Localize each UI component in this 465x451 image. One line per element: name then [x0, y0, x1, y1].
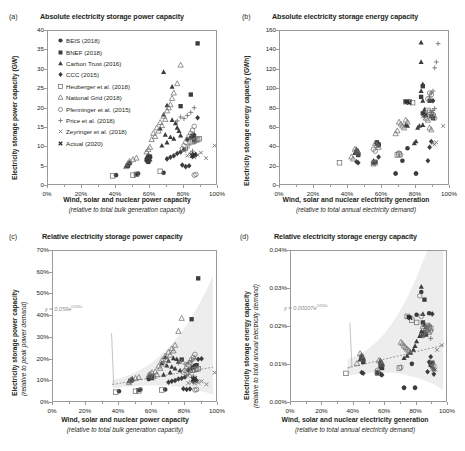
panel-c-ylabel: Electricity storage power capacity [11, 289, 18, 396]
y-axis-tick-mark [44, 88, 47, 89]
y-axis-tick-label: 20 [254, 162, 276, 169]
panel-c: (c) Relative electricity storage power c… [0, 228, 232, 451]
x-axis-minor-tick [330, 185, 331, 187]
y-axis-tick-label: 0.02% [253, 322, 287, 329]
legend-item[interactable]: Heuberger et al. (2018) [56, 81, 131, 92]
x-axis-tick-label: 20% [307, 407, 335, 414]
legend-item-label: Actual (2020) [65, 140, 103, 147]
y-axis-tick-mark [287, 250, 290, 251]
panel-d-plot-area [290, 250, 447, 402]
x-axis-tick-mark [353, 402, 354, 405]
y-axis-tick-label: 30 [22, 65, 44, 72]
legend-item[interactable]: BEIS (2018) [56, 35, 131, 46]
y-axis-tick-mark [44, 146, 47, 147]
x-axis-tick-mark [415, 185, 416, 188]
x-axis-tick-mark [449, 185, 450, 188]
x-axis-tick-mark [416, 402, 417, 405]
x-axis-minor-tick [69, 402, 70, 404]
x-axis-tick-mark [447, 402, 448, 405]
legend-item[interactable]: Pfenninger et al. (2015) [56, 103, 131, 114]
x-axis-tick-mark [183, 185, 184, 188]
x-axis-tick-mark [313, 185, 314, 188]
legend-item[interactable]: Actual (2020) [56, 138, 131, 149]
panel-d-title: Relative electricity storage energy capa… [274, 232, 417, 241]
panel-d-xsublabel: (relative to total annual electricity de… [246, 426, 464, 433]
legend-item[interactable]: CCC (2015) [56, 69, 131, 80]
x-axis-tick-label: 0% [38, 407, 66, 414]
y-axis-tick-label: 50% [23, 289, 49, 296]
x-axis-tick-mark [290, 402, 291, 405]
x-axis-minor-tick [296, 185, 297, 187]
y-axis-tick-label: 10% [23, 376, 49, 383]
y-axis-tick-mark [287, 288, 290, 289]
panel-d-xlabel: Wind, solar and nuclear electricity gene… [246, 416, 464, 423]
y-axis-tick-label: 40% [23, 311, 49, 318]
x-axis-tick-label: 100% [433, 407, 461, 414]
x-axis-tick-mark [279, 185, 280, 188]
y-axis-tick-label: 25 [22, 84, 44, 91]
y-axis-tick-mark [287, 364, 290, 365]
panel-c-title: Relative electricity storage power capac… [42, 232, 183, 241]
x-axis-tick-mark [85, 402, 86, 405]
y-axis-tick-mark [276, 88, 279, 89]
y-axis-tick-label: 0 [22, 181, 44, 188]
y-axis-tick-label: 60% [23, 268, 49, 275]
x-axis-tick-label: 20% [71, 407, 99, 414]
y-axis-tick-mark [287, 326, 290, 327]
panel-b-tag: (b) [242, 13, 251, 20]
y-axis-tick-label: 35 [22, 45, 44, 52]
legend-item[interactable]: Price et al. (2018) [56, 115, 131, 126]
panel-d-ylabel: Electricity storage energy capacity [243, 291, 250, 400]
panel-a-tag: (a) [9, 13, 18, 20]
legend-item-label: BNEF (2018) [65, 49, 102, 56]
y-axis-tick-mark [276, 166, 279, 167]
panel-b-xsublabel: (relative to total annual electricity de… [248, 206, 464, 213]
y-axis-tick-mark [276, 108, 279, 109]
filled-diamond-icon [56, 70, 65, 79]
x-axis-tick-mark [47, 185, 48, 188]
legend-item-label: CCC (2015) [65, 71, 99, 78]
x-axis-minor-tick [200, 185, 201, 187]
panel-a-xsublabel: (relative to total bulk generation capac… [22, 206, 232, 213]
x-axis-minor-tick [168, 402, 169, 404]
x-axis-tick-mark [115, 185, 116, 188]
y-axis-tick-mark [44, 69, 47, 70]
y-axis-tick-label: 0.01% [253, 360, 287, 367]
legend-item[interactable]: BNEF (2018) [56, 46, 131, 57]
plus-icon [56, 116, 65, 125]
y-axis-tick-mark [49, 250, 52, 251]
panel-a: (a) Absolute electricity storage power c… [0, 0, 232, 228]
x-axis-minor-tick [369, 402, 370, 404]
y-axis-tick-label: 70% [23, 246, 49, 253]
x-axis-tick-label: 40% [339, 407, 367, 414]
x-axis-minor-tick [201, 402, 202, 404]
panel-d-scatter [291, 251, 448, 403]
legend-item[interactable]: Zeyringer et al. (2018) [56, 126, 131, 137]
y-axis-tick-mark [276, 146, 279, 147]
x-axis-tick-label: 0% [276, 407, 304, 414]
x-axis-tick-label: 80% [170, 407, 198, 414]
y-axis-tick-mark [276, 127, 279, 128]
filled-circle-icon [56, 36, 65, 45]
y-axis-tick-mark [49, 315, 52, 316]
x-axis-tick-mark [81, 185, 82, 188]
x-axis-minor-tick [337, 402, 338, 404]
y-axis-tick-mark [49, 337, 52, 338]
x-axis-tick-mark [184, 402, 185, 405]
y-axis-tick-label: 0.00% [253, 398, 287, 405]
panel-c-tag: (c) [9, 233, 17, 240]
legend-item-label: Heuberger et al. (2018) [65, 83, 130, 90]
figure-root: (a) Absolute electricity storage power c… [0, 0, 465, 451]
panel-b-scatter [280, 31, 450, 186]
legend-item[interactable]: Carbon Trust (2016) [56, 58, 131, 69]
x-bold-icon [56, 139, 65, 148]
y-axis-tick-mark [44, 30, 47, 31]
legend-item-label: Price et al. (2018) [65, 117, 115, 124]
panel-d-trend-equation: y = 0.00007e0.0162x [284, 304, 327, 311]
y-axis-tick-label: 120 [254, 65, 276, 72]
legend-item[interactable]: National Grid (2018) [56, 92, 131, 103]
open-square-icon [56, 82, 65, 91]
y-axis-tick-label: 15 [22, 123, 44, 130]
y-axis-tick-mark [276, 69, 279, 70]
x-axis-minor-tick [135, 402, 136, 404]
